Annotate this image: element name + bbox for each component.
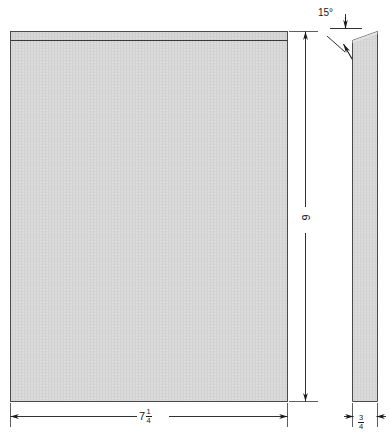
thickness-fraction-denominator: 4 [358,423,363,431]
thickness-dimension-label: 3 4 [358,407,364,431]
width-fraction: 1 4 [146,408,152,425]
width-fraction-denominator: 4 [146,417,151,425]
width-whole-number: 7 [139,411,145,422]
side-view-body [353,32,378,402]
front-view-bevel-band [11,32,288,41]
thickness-fraction: 3 4 [358,414,364,431]
width-fraction-numerator: 1 [146,408,151,416]
thickness-fraction-numerator: 3 [358,414,363,422]
front-view [11,32,288,402]
front-view-face [11,41,288,402]
width-dimension-label: 7 1 4 [139,407,152,425]
height-dimension-label: 9 [301,210,312,226]
bevel-angle-label: 15° [318,8,333,18]
drawing-canvas: 15° 9 7 1 4 3 4 [0,0,390,432]
angle-leader-line [327,36,345,52]
drawing-svg [0,0,390,432]
side-view [353,32,378,402]
